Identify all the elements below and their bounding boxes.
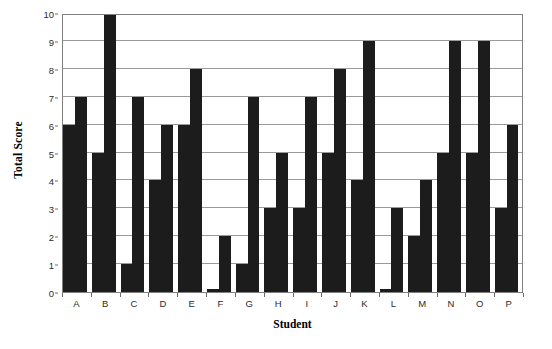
bar-group bbox=[351, 15, 380, 292]
bar-group bbox=[437, 15, 466, 292]
bar bbox=[449, 41, 461, 292]
x-axis-tick-label: C bbox=[131, 298, 138, 309]
y-axis-title: Total Score bbox=[0, 0, 36, 300]
x-axis-tick-mark bbox=[494, 293, 495, 297]
bar bbox=[305, 97, 317, 292]
bar-group bbox=[293, 15, 322, 292]
y-axis-tick-label: 3 bbox=[49, 204, 54, 215]
plot-area bbox=[62, 14, 523, 293]
x-axis-tick-mark bbox=[408, 293, 409, 297]
bar bbox=[104, 14, 116, 292]
bar bbox=[236, 264, 248, 292]
bars-layer bbox=[63, 15, 522, 292]
y-axis-tick-mark bbox=[55, 237, 58, 238]
x-axis-tick-mark bbox=[293, 293, 294, 297]
bar bbox=[178, 125, 190, 292]
y-axis-tick-labels: 012345678910 bbox=[36, 9, 58, 299]
x-axis-tick-mark bbox=[91, 293, 92, 297]
bar-group bbox=[121, 15, 150, 292]
y-axis-tick-label: 4 bbox=[49, 176, 54, 187]
bar bbox=[334, 69, 346, 292]
x-axis-tick-mark bbox=[264, 293, 265, 297]
x-axis-tick-mark bbox=[206, 293, 207, 297]
bar-group-gap bbox=[518, 15, 523, 292]
y-axis-tick-label: 8 bbox=[49, 64, 54, 75]
bar bbox=[121, 264, 133, 292]
y-axis-tick-mark bbox=[55, 14, 58, 15]
bar bbox=[495, 208, 507, 292]
y-axis-tick-mark bbox=[55, 69, 58, 70]
x-axis-tick-label: K bbox=[361, 298, 367, 309]
bar-group bbox=[236, 15, 265, 292]
x-axis-tick-label: N bbox=[448, 298, 455, 309]
bar-group bbox=[495, 15, 523, 292]
y-axis-tick-label: 0 bbox=[49, 288, 54, 299]
bar bbox=[363, 41, 375, 292]
bar-group bbox=[92, 15, 121, 292]
x-axis-tick-mark bbox=[437, 293, 438, 297]
y-axis-tick-label: 9 bbox=[49, 36, 54, 47]
bar bbox=[322, 153, 334, 293]
x-axis-tick-label: M bbox=[418, 298, 426, 309]
x-axis-tick-labels: ABCDEFGHIJKLMNOP bbox=[62, 298, 523, 314]
x-axis-title: Student bbox=[62, 318, 523, 330]
x-axis-tick-label: I bbox=[306, 298, 309, 309]
x-axis-tick-label: H bbox=[275, 298, 282, 309]
x-axis-tick-label: J bbox=[333, 298, 338, 309]
x-axis-tick-mark bbox=[379, 293, 380, 297]
bar-group bbox=[178, 15, 207, 292]
x-axis-tick-label: L bbox=[391, 298, 396, 309]
bar bbox=[92, 153, 104, 293]
bar bbox=[63, 125, 75, 292]
bar-group bbox=[408, 15, 437, 292]
bar bbox=[207, 289, 219, 292]
y-axis-tick-label: 10 bbox=[43, 9, 54, 20]
bar-group bbox=[380, 15, 409, 292]
y-axis-tick-mark bbox=[55, 125, 58, 126]
bar bbox=[293, 208, 305, 292]
x-axis-tick-label: A bbox=[73, 298, 79, 309]
bar-group bbox=[322, 15, 351, 292]
y-axis-tick-mark bbox=[55, 265, 58, 266]
y-axis-tick-label: 7 bbox=[49, 92, 54, 103]
bar bbox=[276, 153, 288, 293]
x-axis-tick-mark bbox=[177, 293, 178, 297]
x-axis-tick-label: D bbox=[159, 298, 166, 309]
bar bbox=[437, 153, 449, 293]
bar-chart: Total Score 012345678910 ABCDEFGHIJKLMNO… bbox=[0, 0, 552, 349]
y-axis-tick-mark bbox=[55, 293, 58, 294]
x-axis-tick-mark bbox=[523, 293, 524, 297]
bar bbox=[466, 153, 478, 293]
bar bbox=[132, 97, 144, 292]
y-axis-title-label: Total Score bbox=[12, 121, 24, 178]
y-axis-tick-label: 2 bbox=[49, 232, 54, 243]
x-axis-tick-label: F bbox=[218, 298, 224, 309]
x-axis-tick-mark bbox=[350, 293, 351, 297]
y-axis-tick-mark bbox=[55, 209, 58, 210]
y-axis-tick-mark bbox=[55, 153, 58, 154]
bar bbox=[190, 69, 202, 292]
bar-group bbox=[63, 15, 92, 292]
y-axis-tick-mark bbox=[55, 41, 58, 42]
x-axis-tick-mark bbox=[321, 293, 322, 297]
x-axis-tick-mark bbox=[62, 293, 63, 297]
bar bbox=[219, 236, 231, 292]
bar bbox=[161, 125, 173, 292]
bar bbox=[248, 97, 260, 292]
x-axis-tick-mark bbox=[120, 293, 121, 297]
y-axis-tick-mark bbox=[55, 181, 58, 182]
x-axis-tick-label: O bbox=[476, 298, 483, 309]
x-axis-tick-mark bbox=[235, 293, 236, 297]
bar bbox=[391, 208, 403, 292]
bar-group bbox=[466, 15, 495, 292]
bar bbox=[264, 208, 276, 292]
bar bbox=[149, 180, 161, 292]
bar-group bbox=[149, 15, 178, 292]
x-axis-tick-label: B bbox=[102, 298, 108, 309]
bar-group bbox=[264, 15, 293, 292]
y-axis-tick-label: 5 bbox=[49, 148, 54, 159]
bar bbox=[380, 289, 392, 292]
bar bbox=[507, 125, 519, 292]
bar bbox=[478, 41, 490, 292]
y-axis-tick-label: 1 bbox=[49, 260, 54, 271]
